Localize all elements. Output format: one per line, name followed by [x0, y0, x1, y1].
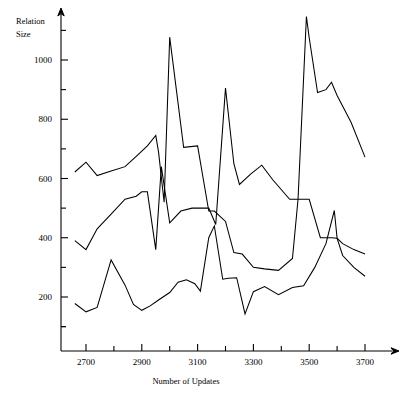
line-chart: Relation Size 20040060080010002700290031…: [0, 0, 410, 402]
x-tick-label: 2900: [133, 357, 152, 367]
x-tick-label: 3700: [356, 357, 375, 367]
series-line-upper-series: [75, 16, 365, 270]
y-tick-label: 600: [39, 174, 53, 184]
y-tick-label: 800: [39, 114, 53, 124]
x-tick-label: 3500: [300, 357, 319, 367]
x-tick-label: 3100: [189, 357, 208, 367]
y-axis-label-line2: Size: [16, 29, 31, 39]
x-tick-label: 2700: [77, 357, 96, 367]
chart-tick-labels: 2004006008001000270029003100330035003700: [34, 55, 375, 367]
chart-axes: [58, 8, 399, 354]
y-tick-label: 200: [39, 292, 53, 302]
series-line-lower-series: [75, 211, 365, 314]
chart-container: Relation Size 20040060080010002700290031…: [0, 0, 410, 402]
y-tick-label: 400: [39, 233, 53, 243]
chart-series-group: [75, 16, 365, 313]
x-tick-label: 3300: [244, 357, 263, 367]
y-tick-label: 1000: [34, 55, 53, 65]
series-line-middle-series: [75, 88, 365, 254]
y-axis-label-line1: Relation: [16, 16, 46, 26]
x-axis-label: Number of Updates: [152, 376, 219, 386]
